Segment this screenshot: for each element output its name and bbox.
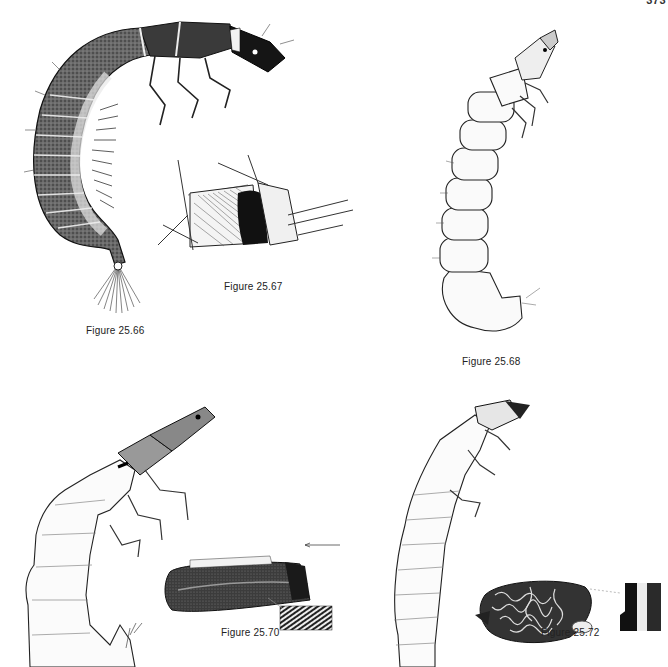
figure-25-68-larva-illustration bbox=[430, 28, 610, 348]
figure-25-67-net-illustration bbox=[158, 155, 353, 255]
figure-25-70-caption: Figure 25.70 bbox=[221, 627, 280, 638]
figure-25-70-case-illustration bbox=[160, 540, 350, 630]
page-number: 373 bbox=[646, 0, 666, 6]
figure-25-72-caption: Figure 25.72 bbox=[541, 627, 600, 638]
figure-25-66-caption: Figure 25.66 bbox=[86, 325, 145, 336]
figure-25-68-caption: Figure 25.68 bbox=[462, 356, 521, 367]
figure-25-67-caption: Figure 25.67 bbox=[224, 281, 283, 292]
